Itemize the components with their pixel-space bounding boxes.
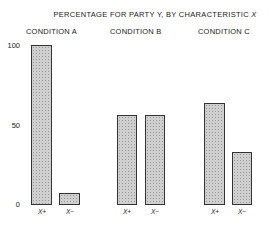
x-label-b-xminus: X− — [144, 208, 166, 215]
panel-title-condition-b: CONDITION B — [110, 27, 161, 36]
title-text: PERCENTAGE FOR PARTY Y, BY CHARACTERISTI… — [53, 10, 251, 19]
chart-title: PERCENTAGE FOR PARTY Y, BY CHARACTERISTI… — [20, 10, 270, 19]
bar-condition-c-xminus — [232, 152, 252, 205]
x-label-a-xplus: X+ — [31, 208, 53, 215]
y-tick-100: 100 — [0, 41, 20, 50]
panel-title-condition-a: CONDITION A — [26, 27, 77, 36]
x-label-c-xminus: X− — [231, 208, 253, 215]
bar-condition-a-xminus — [59, 193, 80, 205]
x-label-c-xplus: X+ — [204, 208, 226, 215]
x-label-a-xminus: X− — [59, 208, 81, 215]
bar-condition-a-xplus — [31, 45, 52, 205]
bar-condition-c-xplus — [204, 103, 225, 205]
y-tick-50: 50 — [0, 121, 20, 130]
panel-title-condition-c: CONDITION C — [198, 27, 250, 36]
bar-condition-b-xplus — [117, 115, 137, 205]
bar-condition-b-xminus — [145, 115, 165, 205]
x-label-b-xplus: X+ — [116, 208, 138, 215]
y-tick-0: 0 — [0, 200, 20, 209]
title-variable: X — [251, 10, 256, 19]
